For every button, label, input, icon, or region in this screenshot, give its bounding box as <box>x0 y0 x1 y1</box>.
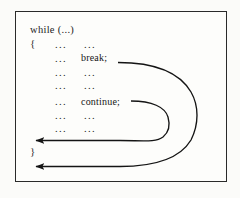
code-block: while (...) { ... ... ... break; ... ...… <box>0 0 240 198</box>
close-brace: } <box>30 146 36 157</box>
line-1-indent-dots: ... <box>55 39 67 50</box>
line-6-body-dots: ... <box>84 110 96 121</box>
line-3-body-dots: ... <box>84 67 96 78</box>
line-4-indent-dots: ... <box>55 80 67 91</box>
while-header: while (...) <box>30 24 74 35</box>
line-6-indent-dots: ... <box>55 110 67 121</box>
continue-statement: continue; <box>81 96 120 107</box>
line-1-body-dots: ... <box>84 39 96 50</box>
break-statement: break; <box>81 52 107 63</box>
line-7-indent-dots: ... <box>55 123 67 134</box>
line-3-indent-dots: ... <box>55 67 67 78</box>
line-7-body-dots: ... <box>84 123 96 134</box>
loop-control-flow-figure: while (...) { ... ... ... break; ... ...… <box>0 0 240 198</box>
line-2-indent-dots: ... <box>55 53 67 64</box>
line-4-body-dots: ... <box>84 80 96 91</box>
line-5-indent-dots: ... <box>55 96 67 107</box>
open-brace: { <box>30 38 36 49</box>
